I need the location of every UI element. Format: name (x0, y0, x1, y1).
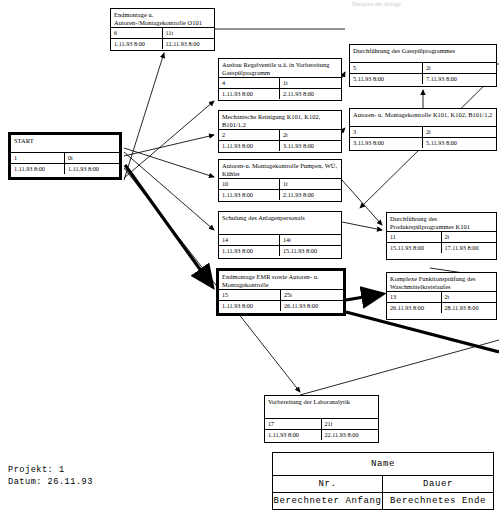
ausbau-to-durchf-gasspuel (342, 72, 345, 78)
node-start-date: 1.11.93 8:00 (111, 39, 163, 49)
node-dauer: 2t (423, 127, 496, 137)
project-label: Projekt: 1 (8, 464, 93, 476)
node-row-nr-dauer: 14 14t (219, 235, 341, 246)
node-name: Schulung des Anlagenpersonals (219, 212, 341, 235)
node-autoren-montagekontrolle-k101[interactable]: Autoren- u. Montagekontrolle K101, K102,… (349, 108, 497, 151)
node-row-dates: 1.11.93 8:00 3.11.93 8:00 (219, 141, 341, 151)
node-name: Endmontage EMR sowie Autoren- u. Montage… (219, 271, 343, 290)
node-endmontage-emr[interactable]: Endmontage EMR sowie Autoren- u. Montage… (216, 268, 346, 316)
node-start-date: 1.11.93 8:00 (219, 141, 280, 151)
node-name: Ausbau Regelventile u.ä. in Vorbereitung… (219, 59, 341, 78)
node-schulung-anlagenpersonal[interactable]: Schulung des Anlagenpersonals 14 14t 1.1… (218, 211, 342, 259)
node-start-date: 26.11.93 8:00 (387, 303, 442, 313)
node-dauer: 21t (322, 419, 379, 429)
legend-dauer: Dauer (383, 476, 493, 492)
node-dauer: 25t (281, 290, 343, 300)
node-end-date: 2.11.93 8:00 (280, 190, 341, 200)
node-end-date: 17.11.93 8:00 (442, 243, 497, 253)
node-start-date: 1.11.93 8:00 (265, 430, 322, 440)
legend-end: Berechnetes Ende (383, 493, 493, 509)
node-nr: 2 (219, 130, 280, 140)
node-autoren-montagekontrolle-pumpen[interactable]: Autoren-u. Montagekontrolle Pumpen, WÜ, … (218, 159, 342, 202)
node-ausbau-regelventile[interactable]: Ausbau Regelventile u.ä. in Vorbereitung… (218, 58, 342, 101)
start-to-ausbau (124, 101, 214, 178)
node-nr: 4 (219, 78, 280, 88)
node-nr: 10 (219, 179, 280, 189)
node-start[interactable]: START 1 0t 1.11.93 8:00 1.11.93 8:00 (8, 132, 122, 180)
node-row-dates: 1.11.93 8:00 26.11.93 8:00 (219, 301, 343, 311)
node-vorbereitung-laboranalytik[interactable]: Vorbereitung der Laboranalytik 17 21t 1.… (264, 395, 379, 443)
node-name: Endmontage u. Autoren-/Montagekontrolle … (111, 9, 214, 28)
node-row-dates: 1.11.93 8:00 12.11.93 8:00 (111, 39, 214, 49)
node-nr: 1 (11, 153, 65, 163)
node-start-date: 15.11.93 8:00 (387, 243, 442, 253)
date-label: Datum: 26.11.93 (8, 476, 93, 488)
node-row-nr-dauer: 15 25t (219, 290, 343, 301)
start-to-endmontage-o101 (124, 53, 164, 180)
node-end-date: 12.11.93 8:00 (163, 39, 215, 49)
node-row-dates: 1.11.93 8:00 1.11.93 8:00 (11, 164, 119, 174)
node-end-date: 26.11.93 8:00 (281, 301, 343, 311)
node-end-date: 7.11.93 8:00 (423, 74, 496, 84)
node-row-nr-dauer: 2 2t (219, 130, 341, 141)
node-row-nr-dauer: 10 1t (219, 179, 341, 190)
node-komplexe-funktionspruefung[interactable]: Komplexe Funktionsprüfung des Waschmitte… (386, 272, 497, 320)
start-to-mech-reinigung (124, 135, 214, 156)
node-end-date: 1.11.93 8:00 (65, 164, 119, 174)
node-row-dates: 3.11.93 8:00 5.11.93 8:00 (350, 138, 496, 148)
node-row-dates: 1.11.93 8:00 22.11.93 8:00 (265, 430, 378, 440)
node-row-dates: 1.11.93 8:00 15.11.93 8:00 (219, 246, 341, 256)
node-dauer: 0t (65, 153, 119, 163)
node-row-nr-dauer: 6 11t (111, 28, 214, 39)
node-dauer: 14t (280, 235, 341, 245)
node-dauer: 2t (442, 292, 497, 302)
node-row-dates: 5.11.93 8:00 7.11.93 8:00 (350, 74, 496, 84)
node-nr: 17 (265, 419, 322, 429)
node-start-date: 1.11.93 8:00 (219, 89, 280, 99)
network-diagram-canvas: START 1 0t 1.11.93 8:00 1.11.93 8:00 End… (0, 0, 499, 512)
endmontage-emr-to-komplexe (346, 294, 382, 300)
node-durchfuehrung-produktspuelprogramm[interactable]: Durchführung des Produktspülprogrammes K… (386, 212, 497, 260)
legend-box: Name Nr. Dauer Berechneter Anfang Berech… (272, 452, 494, 510)
node-dauer: 2t (442, 232, 497, 242)
node-row-nr-dauer: 1 0t (11, 153, 119, 164)
node-row-dates: 15.11.93 8:00 17.11.93 8:00 (387, 243, 496, 253)
node-start-date: 3.11.93 8:00 (350, 138, 423, 148)
node-dauer: 2t (423, 63, 496, 73)
node-row-nr-dauer: 4 1t (219, 78, 341, 89)
node-start-date: 5.11.93 8:00 (350, 74, 423, 84)
node-row-nr-dauer: 17 21t (265, 419, 378, 430)
node-nr: 3 (350, 127, 423, 137)
node-row-nr-dauer: 5 2t (350, 63, 496, 74)
node-mechanische-reinigung[interactable]: Mechanische Reinigung K101, K102, B101/1… (218, 110, 342, 153)
node-nr: 15 (219, 290, 281, 300)
legend-nr: Nr. (273, 476, 383, 492)
node-row-dates: 26.11.93 8:00 28.11.93 8:00 (387, 303, 496, 313)
start-to-schulung (124, 152, 214, 230)
node-end-date: 15.11.93 8:00 (280, 246, 341, 256)
node-start-date: 1.11.93 8:00 (11, 164, 65, 174)
node-name: Durchführung des Produktspülprogrammes K… (387, 213, 496, 232)
autoren-pumpen-to-produkt (342, 180, 382, 225)
node-nr: 11 (387, 232, 442, 242)
legend-start: Berechneter Anfang (273, 493, 383, 509)
node-row-dates: 1.11.93 8:00 2.11.93 8:00 (219, 89, 341, 99)
node-name: START (11, 135, 119, 153)
node-name: Mechanische Reinigung K101, K102, B101/1… (219, 111, 341, 130)
node-row-nr-dauer: 3 2t (350, 127, 496, 138)
node-dauer: 2t (280, 130, 341, 140)
node-name: Autoren- u. Montagekontrolle K101, K102,… (350, 109, 496, 127)
node-name: Autoren-u. Montagekontrolle Pumpen, WÜ, … (219, 160, 341, 179)
node-nr: 5 (350, 63, 423, 73)
start-to-endmontage-emr (125, 165, 212, 286)
node-row-nr-dauer: 13 2t (387, 292, 496, 303)
labor-long-right (300, 340, 499, 395)
node-durchfuehrung-gasspuelprogramm[interactable]: Durchführung des Gasspülprogrammes 5 2t … (349, 44, 497, 87)
legend-row-dates: Berechneter Anfang Berechnetes Ende (273, 493, 493, 509)
project-info: Projekt: 1 Datum: 26.11.93 (8, 464, 93, 488)
mech-to-autoren-k101 (342, 128, 345, 131)
node-dauer: 11t (163, 28, 215, 38)
node-start-date: 1.11.93 8:00 (219, 190, 280, 200)
node-endmontage-o101[interactable]: Endmontage u. Autoren-/Montagekontrolle … (110, 8, 215, 51)
top-note: Netzplan der Anlage (352, 1, 401, 7)
